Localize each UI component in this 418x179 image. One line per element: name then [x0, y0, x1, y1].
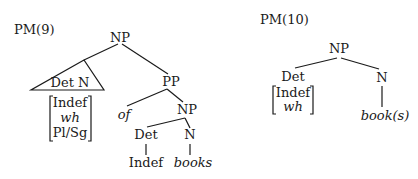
feature-bracket-pm9: Indef wh Pl/Sg — [50, 95, 91, 141]
node-n: N — [184, 127, 195, 142]
tree-pm10: PM(10) NP Det N Indef wh book(s) — [260, 12, 409, 123]
word-of: of — [118, 107, 133, 122]
node-np-root: NP — [110, 30, 130, 45]
node-np-inner: NP — [177, 102, 197, 117]
branch-np-to-triangle — [84, 44, 118, 60]
node-n: N — [376, 70, 387, 85]
branch-np-to-pp — [122, 44, 168, 74]
node-det-n: Det N — [51, 75, 90, 90]
feature-indef: Indef — [53, 95, 89, 110]
word-indef: Indef — [129, 155, 165, 170]
right-bracket — [310, 86, 313, 114]
branch-pp-to-of — [127, 89, 167, 106]
feature-bracket-pm10: Indef wh — [273, 85, 313, 114]
word-books: book(s) — [361, 108, 410, 123]
feature-indef: Indef — [276, 85, 312, 100]
phrase-marker-diagrams: PM(9) NP Det N Indef wh Pl/Sg PP of NP D… — [0, 0, 418, 179]
feature-pl-sg: Pl/Sg — [53, 125, 88, 140]
tree-pm9: PM(9) NP Det N Indef wh Pl/Sg PP of NP D… — [14, 22, 213, 170]
branch-np-to-det — [295, 58, 337, 68]
node-det: Det — [281, 69, 305, 84]
feature-wh: wh — [283, 99, 303, 114]
word-books: books — [174, 155, 213, 170]
right-bracket — [88, 96, 91, 141]
branch-pp-to-np — [167, 89, 183, 102]
branch-np-to-det — [147, 118, 185, 127]
node-np-root: NP — [329, 41, 349, 56]
branch-np-to-n — [341, 58, 379, 69]
node-det: Det — [134, 127, 158, 142]
tree-label-pm9: PM(9) — [14, 22, 54, 37]
feature-wh: wh — [60, 110, 80, 125]
node-pp: PP — [162, 74, 180, 89]
tree-label-pm10: PM(10) — [260, 12, 309, 27]
